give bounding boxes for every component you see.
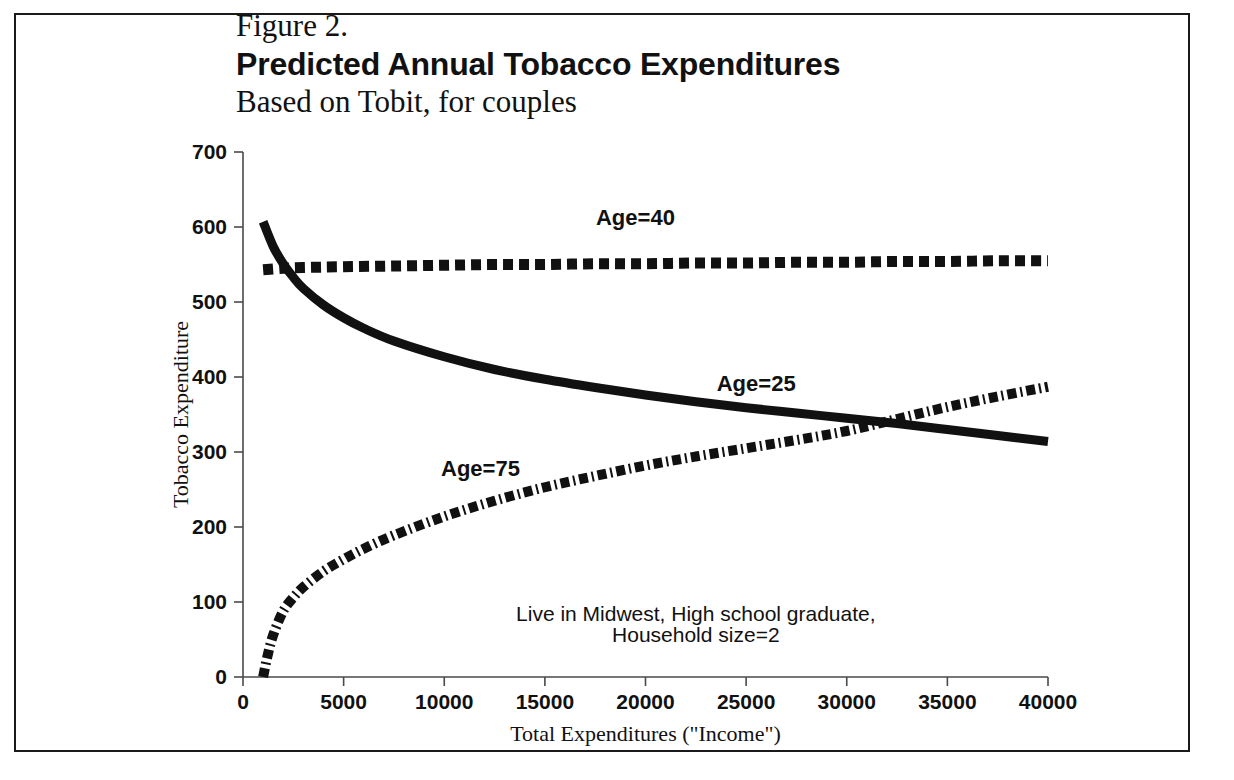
x-tick-label: 25000: [717, 690, 775, 713]
y-tick-label: 600: [192, 215, 227, 238]
y-tick-label: 200: [192, 515, 227, 538]
series-label-age-40: Age=40: [596, 205, 675, 230]
y-tick-label: 300: [192, 440, 227, 463]
series-labels: Age=40Age=25Age=75Live in Midwest, High …: [441, 205, 876, 646]
series-line-age-25: [263, 222, 1048, 442]
x-tick-label: 10000: [415, 690, 473, 713]
series-label-age-25: Age=25: [717, 371, 796, 396]
series-label-age-75: Age=75: [441, 456, 520, 481]
tobacco-expenditure-line-chart: 0100200300400500600700 05000100001500020…: [0, 0, 1234, 780]
x-tick-label: 40000: [1019, 690, 1077, 713]
x-axis-ticks: 0500010000150002000025000300003500040000: [237, 677, 1077, 713]
series-line-age-40: [263, 261, 1048, 270]
annotation-text-3: Live in Midwest, High school graduate,: [516, 602, 876, 625]
y-tick-label: 500: [192, 290, 227, 313]
y-tick-label: 700: [192, 140, 227, 163]
x-tick-label: 5000: [320, 690, 367, 713]
y-tick-label: 0: [215, 665, 227, 688]
x-tick-label: 0: [237, 690, 249, 713]
y-tick-label: 100: [192, 590, 227, 613]
y-axis-title: Tobacco Expenditure: [168, 321, 193, 508]
x-tick-label: 15000: [516, 690, 574, 713]
chart-container: 0100200300400500600700 05000100001500020…: [0, 0, 1234, 780]
axes: [243, 152, 1048, 677]
x-axis-title: Total Expenditures ("Income"): [510, 721, 781, 746]
x-tick-label: 35000: [918, 690, 976, 713]
annotation-text-4: Household size=2: [612, 623, 780, 646]
x-tick-label: 30000: [818, 690, 876, 713]
y-axis-ticks: 0100200300400500600700: [192, 140, 243, 688]
x-tick-label: 20000: [616, 690, 674, 713]
y-tick-label: 400: [192, 365, 227, 388]
